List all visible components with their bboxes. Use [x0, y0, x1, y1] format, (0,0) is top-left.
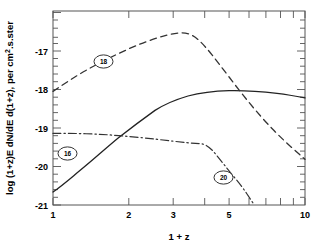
- curve-tag-20: 20: [214, 171, 233, 184]
- y-tick-labels: -17 -18 -19 -20 -21: [35, 47, 48, 211]
- curve-tag-16: 16: [58, 147, 77, 160]
- x-tick-label: 2: [126, 210, 131, 220]
- curve-tag-18: 18: [94, 55, 113, 68]
- y-tick-label: -17: [35, 47, 48, 57]
- y-axis-title-pre: log (1+z)E dN/dE d(1+z), per cm: [4, 53, 15, 195]
- x-tick-label: 5: [227, 210, 232, 220]
- x-tick-labels: 1 2 3 5 10: [50, 210, 310, 220]
- curve-tag-16-label: 16: [64, 150, 72, 157]
- x-axis-title: 1 + z: [169, 231, 190, 242]
- curve-tag-18-label: 18: [100, 58, 108, 65]
- y-tick-label: -18: [35, 85, 48, 95]
- y-axis-title: log (1+z)E dN/dE d(1+z), per cm2.s.ster: [4, 21, 15, 195]
- plot-frame: [53, 11, 305, 205]
- y-tick-label: -20: [35, 162, 48, 172]
- x-tick-label: 3: [171, 210, 176, 220]
- x-tick-label: 1: [50, 210, 55, 220]
- x-tick-label: 10: [300, 210, 310, 220]
- y-axis-title-post: .s.ster: [4, 21, 15, 49]
- curve-tag-20-label: 20: [220, 174, 228, 181]
- chart-figure: 1 2 3 5 10 -17 -18 -19 -20 -21 1 + z log…: [0, 0, 318, 248]
- y-tick-label: -21: [35, 201, 48, 211]
- y-tick-label: -19: [35, 124, 48, 134]
